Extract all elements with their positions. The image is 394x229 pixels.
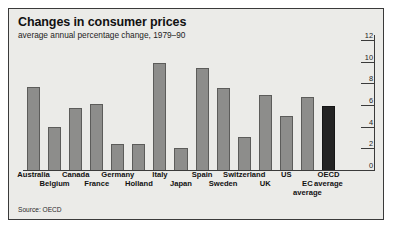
x-axis-label-line: Sweden [209, 179, 238, 188]
y-tick-mark [361, 83, 375, 84]
y-tick-label: 4 [369, 119, 373, 127]
x-axis-label-line: Canada [62, 170, 89, 179]
x-axis-label-line: Switzerland [223, 170, 265, 179]
bar-canada [69, 108, 82, 171]
x-axis-label-line: Japan [170, 179, 192, 188]
bar-uk [259, 95, 272, 171]
x-axis-label-line: Germany [101, 170, 134, 179]
y-tick-label: 6 [369, 97, 373, 105]
x-axis-labels: AustraliaBelgiumCanadaFranceGermanyHolla… [23, 171, 339, 205]
x-axis-label-france: France [84, 180, 109, 189]
x-axis-label-line: average [314, 180, 343, 189]
x-axis-label-line: Belgium [40, 179, 70, 188]
bar-japan [174, 148, 187, 171]
x-axis-label-italy: Italy [152, 171, 167, 180]
x-axis-label-uk: UK [260, 180, 271, 189]
bar-sweden [217, 88, 230, 171]
bars-container [23, 41, 339, 171]
bar-italy [153, 63, 166, 171]
bar-germany [111, 144, 124, 171]
y-tick-mark [361, 62, 375, 63]
x-axis-label-sweden: Sweden [209, 180, 238, 189]
source-note: Source: OECD [18, 206, 62, 213]
y-tick-label: 12 [365, 32, 373, 40]
y-tick-mark [361, 105, 375, 106]
y-axis: 024681012 [343, 41, 375, 171]
bar-france [90, 104, 103, 171]
x-axis-label-line: UK [260, 179, 271, 188]
page-title: Changes in consumer prices [18, 15, 348, 29]
x-axis-label-line: Spain [192, 170, 213, 179]
bar-switzerland [238, 137, 251, 171]
bar-ec-average [301, 97, 314, 171]
x-axis-label-line: OECD [317, 170, 339, 179]
x-axis-label-line: Holland [125, 179, 153, 188]
x-axis-label-line: Australia [17, 170, 50, 179]
y-tick-mark [361, 148, 375, 149]
y-tick-mark [361, 127, 375, 128]
x-axis-label-holland: Holland [125, 180, 153, 189]
y-tick-mark [361, 170, 375, 171]
y-axis-line [374, 35, 375, 171]
bar-australia [27, 87, 40, 172]
x-axis-label-line: France [84, 179, 109, 188]
y-tick-label: 0 [369, 162, 373, 170]
x-axis-label-line: Italy [152, 170, 167, 179]
x-axis-label-japan: Japan [170, 180, 192, 189]
bar-belgium [48, 127, 61, 171]
x-axis-label-line: EC [302, 179, 313, 188]
plot-area [23, 41, 339, 171]
bar-us [280, 116, 293, 171]
y-tick-mark [361, 40, 375, 41]
y-tick-label: 8 [369, 75, 373, 83]
x-axis-label-line: US [281, 170, 292, 179]
chart-subtitle: average annual percentage change, 1979–9… [18, 30, 348, 41]
bar-spain [196, 68, 209, 171]
bar-holland [132, 144, 145, 171]
x-axis-label-belgium: Belgium [40, 180, 70, 189]
x-axis-label-oecd-average: OECDaverage [314, 171, 343, 188]
chart-figure: Changes in consumer prices average annua… [8, 8, 384, 220]
bar-oecd-average [322, 106, 335, 171]
chart-header: Changes in consumer prices average annua… [18, 15, 348, 41]
y-tick-label: 10 [365, 54, 373, 62]
x-axis-label-line: average [293, 189, 322, 198]
y-tick-label: 2 [369, 140, 373, 148]
x-axis-label-us: US [281, 171, 292, 180]
